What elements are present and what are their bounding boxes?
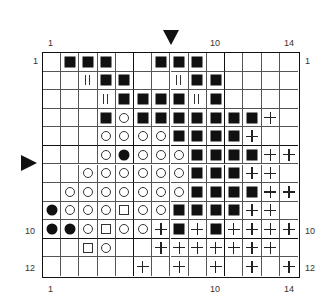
chart-cell-r10-c5 [116,220,134,239]
chart-cell-r9-c6 [134,202,152,221]
open-circle-icon [174,168,184,178]
filled-square-icon [228,186,239,197]
chart-cell-r3-c7 [152,90,170,109]
chart-cell-r10-c3 [79,220,97,239]
chart-cell-r7-c3 [79,165,97,184]
filled-square-icon [210,75,221,86]
chart-cell-r9-c14 [280,202,298,221]
filled-square-icon [246,112,257,123]
chart-cell-r9-c4 [98,202,116,221]
filled-square-icon [174,224,185,235]
chart-cell-r7-c9 [189,165,207,184]
plus-icon [283,261,295,273]
chart-cell-r8-c7 [152,183,170,202]
filled-square-icon [228,149,239,160]
chart-cell-r4-c2 [61,109,79,128]
chart-cell-r7-c4 [98,165,116,184]
chart-cell-r5-c8 [171,127,189,146]
chart-cell-r5-c9 [189,127,207,146]
chart-cell-r9-c13 [262,202,280,221]
chart-cell-r4-c5 [116,109,134,128]
chart-cell-r1-c8 [171,53,189,72]
plus-icon [173,242,185,254]
open-circle-icon [138,131,148,141]
filled-circle-icon [119,149,130,160]
knitting-chart-grid [42,52,300,278]
chart-cell-r8-c10 [207,183,225,202]
open-circle-icon [174,187,184,197]
chart-cell-r5-c10 [207,127,225,146]
open-circle-icon [101,131,111,141]
chart-cell-r3-c6 [134,90,152,109]
open-square-icon [83,243,93,253]
chart-cell-r8-c8 [171,183,189,202]
chart-cell-r3-c12 [243,90,261,109]
chart-cell-r1-c12 [243,53,261,72]
open-circle-icon [65,205,75,215]
filled-circle-icon [64,224,75,235]
chart-cell-r3-c8 [171,90,189,109]
top-label-col-10: 10 [210,39,220,48]
chart-cell-r12-c8 [171,257,189,276]
chart-cell-r12-c11 [225,257,243,276]
chart-cell-r2-c12 [243,72,261,91]
chart-cell-r7-c10 [207,165,225,184]
chart-cell-r2-c4 [98,72,116,91]
chart-cell-r3-c13 [262,90,280,109]
filled-square-icon [210,112,221,123]
open-circle-icon [101,187,111,197]
plus-icon [210,242,222,254]
open-circle-icon [101,205,111,215]
top-label-col-14: 14 [284,39,294,48]
filled-square-icon [228,131,239,142]
plus-icon [246,242,258,254]
filled-square-icon [192,186,203,197]
chart-cell-r6-c4 [98,146,116,165]
open-circle-icon [156,150,166,160]
chart-cell-r1-c2 [61,53,79,72]
filled-square-icon [210,168,221,179]
chart-cell-r6-c8 [171,146,189,165]
filled-square-icon [210,149,221,160]
chart-cell-r10-c10 [207,220,225,239]
chart-cell-r6-c2 [61,146,79,165]
filled-square-icon [210,224,221,235]
chart-cell-r2-c14 [280,72,298,91]
chart-cell-r12-c3 [79,257,97,276]
open-square-icon [119,205,129,215]
chart-cell-r12-c7 [152,257,170,276]
plus-icon [137,261,149,273]
plus-icon [228,242,240,254]
chart-cell-r3-c9 [189,90,207,109]
chart-cell-r8-c9 [189,183,207,202]
plus-icon [264,242,276,254]
chart-cell-r8-c13 [262,183,280,202]
plus-icon [173,261,185,273]
chart-cell-r12-c5 [116,257,134,276]
bottom-label-col-10: 10 [210,285,220,294]
filled-square-icon [137,112,148,123]
filled-square-icon [137,93,148,104]
filled-square-icon [119,93,130,104]
chart-cell-r5-c7 [152,127,170,146]
chart-cell-r8-c5 [116,183,134,202]
chart-cell-r8-c3 [79,183,97,202]
open-circle-icon [156,205,166,215]
filled-square-icon [101,75,112,86]
filled-square-icon [228,168,239,179]
chart-cell-r1-c9 [189,53,207,72]
open-circle-icon [83,205,93,215]
chart-cell-r11-c1 [43,239,61,258]
chart-cell-r12-c1 [43,257,61,276]
chart-cell-r1-c5 [116,53,134,72]
open-circle-icon [65,187,75,197]
filled-square-icon [155,56,166,67]
chart-cell-r10-c14 [280,220,298,239]
chart-cell-r4-c7 [152,109,170,128]
chart-cell-r5-c2 [61,127,79,146]
bottom-label-col-14: 14 [284,285,294,294]
chart-cell-r10-c9 [189,220,207,239]
chart-cell-r11-c14 [280,239,298,258]
top-label-col-1: 1 [48,39,53,48]
chart-cell-r4-c1 [43,109,61,128]
